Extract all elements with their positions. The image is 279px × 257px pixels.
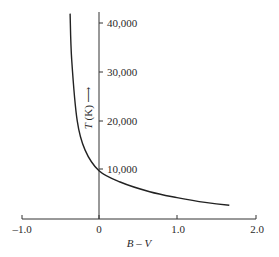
svg-text:T (K) ⟶: T (K) ⟶ [82,86,95,129]
chart: –1.0 0 1.0 2.0 40,000 30,000 20,000 10,0… [0,0,279,257]
y-tick-label: 40,000 [107,17,138,29]
y-tick-label: 30,000 [107,66,138,78]
x-axis-title: B – V [127,237,153,249]
x-tick-label: 0 [96,223,102,235]
arrow-right-icon: ⟶ [82,86,94,102]
x-tick-label: –1.0 [11,223,32,235]
y-tick-label: 10,000 [107,163,138,175]
y-ticks [99,23,103,169]
x-tick-label: 2.0 [250,223,264,235]
y-axis-title: T (K) ⟶ [82,86,95,129]
y-axis-title-unit: (K) [82,102,95,123]
y-tick-label: 20,000 [107,115,138,127]
x-tick-label: 1.0 [171,223,185,235]
x-ticks [22,215,256,219]
